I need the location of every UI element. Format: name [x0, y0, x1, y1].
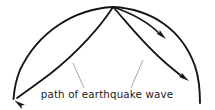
caption-label: path of earthquake wave [41, 88, 174, 100]
outer-arc-left [14, 7, 114, 99]
diagram-canvas: path of earthquake wave [0, 0, 215, 110]
arrowhead-left-icon [13, 98, 25, 109]
caption-leader-left [73, 63, 84, 88]
caption-leader-right [131, 60, 143, 88]
earthquake-wave-diagram: path of earthquake wave [0, 0, 215, 110]
wave-ray-right-deep [113, 7, 183, 77]
